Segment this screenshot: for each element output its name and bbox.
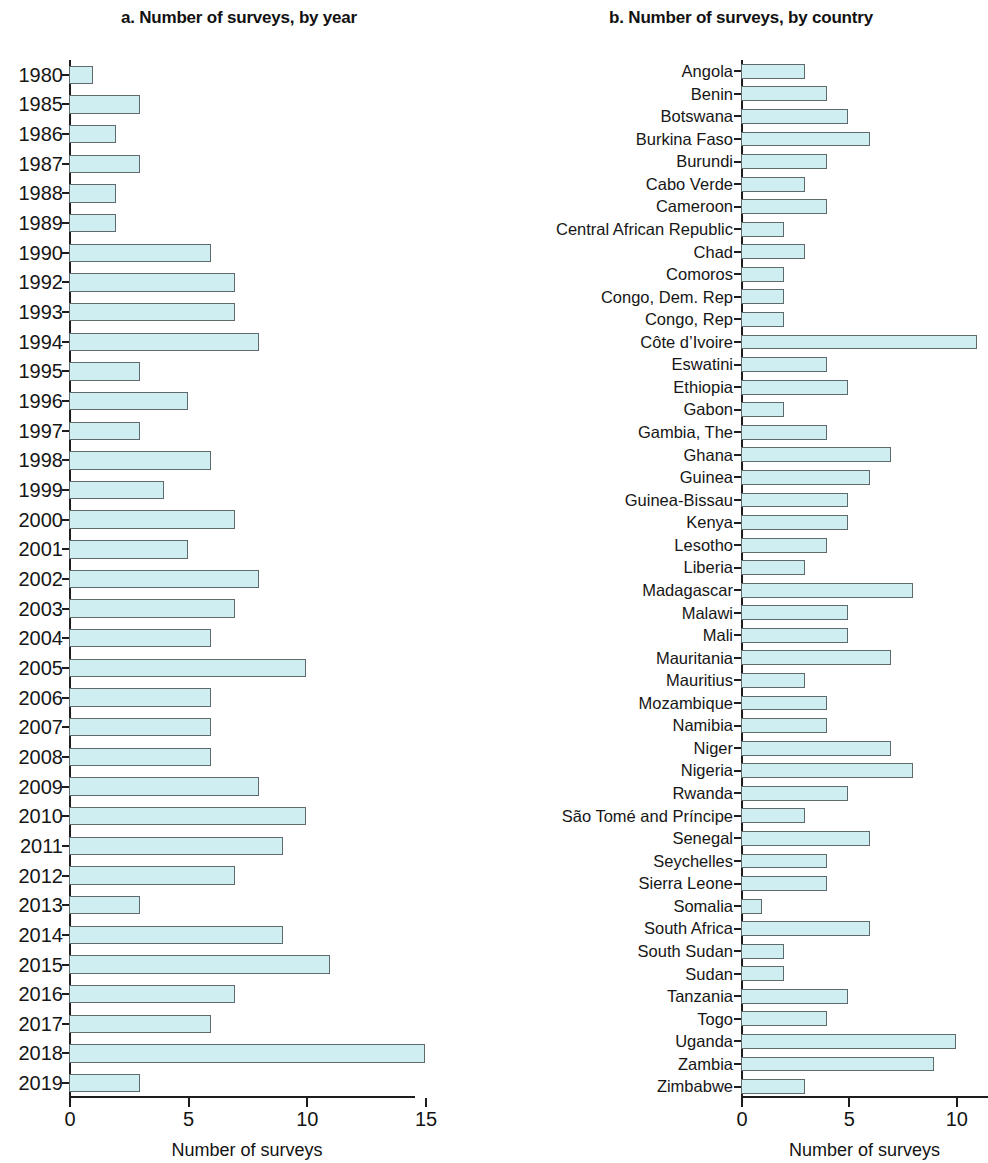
bar-row: Sierra Leone — [494, 872, 988, 895]
bar — [741, 944, 784, 959]
y-axis-tick — [734, 341, 741, 343]
y-axis-tick — [734, 725, 741, 727]
bar — [69, 570, 259, 588]
bar-category-label: 2003 — [0, 599, 69, 619]
bar — [69, 540, 188, 558]
bar — [69, 66, 93, 84]
bar-track — [741, 759, 988, 782]
bar-category-label: Cameroon — [494, 198, 741, 215]
y-axis-tick — [734, 364, 741, 366]
bar-category-label: 1987 — [0, 154, 69, 174]
bar — [741, 515, 848, 530]
bar — [69, 422, 140, 440]
bar-track — [741, 1053, 988, 1076]
y-axis-tick — [734, 702, 741, 704]
bar-row: 2018 — [0, 1039, 425, 1069]
panel-b-surveys-by-country: b. Number of surveys, by country AngolaB… — [494, 0, 988, 1163]
bar — [69, 748, 211, 766]
bar — [741, 673, 805, 688]
y-axis-tick — [62, 252, 69, 254]
bar-category-label: Cabo Verde — [494, 176, 741, 193]
bar-category-label: 2008 — [0, 747, 69, 767]
bar — [741, 650, 891, 665]
bar-category-label: Nigeria — [494, 762, 741, 779]
panel-b-x-axis: Number of surveys 0510 — [494, 1098, 988, 1158]
bar — [69, 599, 235, 617]
panel-b-x-axis-title: Number of surveys — [741, 1140, 988, 1161]
bar-track — [741, 241, 988, 264]
bar-row: Senegal — [494, 827, 988, 850]
bar — [741, 493, 848, 508]
y-axis-tick — [62, 875, 69, 877]
bar — [741, 222, 784, 237]
y-axis-tick — [62, 845, 69, 847]
bar-row: Cameroon — [494, 195, 988, 218]
bar-track — [69, 594, 425, 624]
panel-a-title: a. Number of surveys, by year — [0, 8, 478, 28]
bar-row: 1997 — [0, 416, 425, 446]
bar-row: Chad — [494, 241, 988, 264]
bar-category-label: Lesotho — [494, 537, 741, 554]
bar-category-label: 1992 — [0, 272, 69, 292]
bar — [69, 1015, 211, 1033]
bar-track — [741, 827, 988, 850]
bar-row: Seychelles — [494, 850, 988, 873]
bar-row: Uganda — [494, 1030, 988, 1053]
bar-track — [741, 737, 988, 760]
bar — [741, 696, 827, 711]
bar-row: Lesotho — [494, 534, 988, 557]
bar-row: 2002 — [0, 564, 425, 594]
x-axis-tick — [741, 1098, 743, 1107]
bar-track — [69, 920, 425, 950]
bar-category-label: 2017 — [0, 1014, 69, 1034]
y-axis-tick — [62, 993, 69, 995]
y-axis-tick — [62, 519, 69, 521]
bar-category-label: Namibia — [494, 717, 741, 734]
bar — [69, 125, 116, 143]
y-axis-tick — [62, 637, 69, 639]
y-axis-tick — [734, 973, 741, 975]
bar-category-label: 2006 — [0, 688, 69, 708]
bar — [741, 1057, 934, 1072]
bar-category-label: 1986 — [0, 124, 69, 144]
bar-row: 2001 — [0, 535, 425, 565]
bar — [69, 807, 306, 825]
bar-category-label: Côte d’Ivoire — [494, 334, 741, 351]
bar-category-label: 2018 — [0, 1043, 69, 1063]
bar-row: South Africa — [494, 917, 988, 940]
bar-category-label: 1993 — [0, 302, 69, 322]
bar-track — [741, 376, 988, 399]
y-axis-tick — [62, 815, 69, 817]
bar — [69, 451, 211, 469]
bar-track — [741, 105, 988, 128]
y-axis-tick — [734, 1018, 741, 1020]
bar — [741, 177, 805, 192]
bar-category-label: Senegal — [494, 830, 741, 847]
bar-track — [69, 801, 425, 831]
bar — [741, 854, 827, 869]
bar-track — [741, 579, 988, 602]
bar — [741, 966, 784, 981]
bar-row: São Tomé and Príncipe — [494, 805, 988, 828]
bar-category-label: Burkina Faso — [494, 131, 741, 148]
bar-track — [69, 653, 425, 683]
bar-category-label: Mauritania — [494, 650, 741, 667]
bar-track — [69, 90, 425, 120]
bar-category-label: Liberia — [494, 559, 741, 576]
bar — [69, 362, 140, 380]
y-axis-tick — [734, 634, 741, 636]
bar-row: 2008 — [0, 742, 425, 772]
bar — [741, 289, 784, 304]
y-axis-tick — [734, 883, 741, 885]
bar-category-label: Somalia — [494, 898, 741, 915]
bar-row: Botswana — [494, 105, 988, 128]
bar-track — [741, 1030, 988, 1053]
bar-row: 1996 — [0, 386, 425, 416]
y-axis-tick — [734, 770, 741, 772]
y-axis-tick — [734, 837, 741, 839]
panel-a-plot-area: 1980198519861987198819891990199219931994… — [0, 60, 425, 1098]
bar-category-label: Mauritius — [494, 672, 741, 689]
bar-row: 2010 — [0, 801, 425, 831]
bar-category-label: Mali — [494, 627, 741, 644]
bar-row: 2009 — [0, 772, 425, 802]
